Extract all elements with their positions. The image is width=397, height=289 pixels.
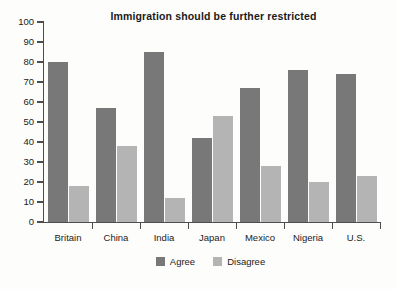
x-axis-tick bbox=[140, 222, 141, 229]
bar-japan-disagree bbox=[213, 116, 233, 222]
x-axis-tick bbox=[236, 222, 237, 229]
y-axis-tick bbox=[37, 221, 44, 222]
legend-swatch-icon bbox=[156, 257, 165, 266]
legend-swatch-icon bbox=[213, 257, 222, 266]
x-axis-label-britain: Britain bbox=[44, 232, 92, 243]
x-axis-tick bbox=[332, 222, 333, 229]
y-axis-tick bbox=[37, 101, 44, 102]
bar-britain-agree bbox=[48, 62, 68, 222]
x-axis-label-mexico: Mexico bbox=[236, 232, 284, 243]
y-axis-tick bbox=[37, 61, 44, 62]
x-axis-line bbox=[43, 222, 380, 223]
bar-japan-agree bbox=[192, 138, 212, 222]
bar-china-disagree bbox=[117, 146, 137, 222]
chart-title: Immigration should be further restricted bbox=[0, 10, 397, 22]
y-axis-tick bbox=[37, 81, 44, 82]
legend-label: Disagree bbox=[227, 256, 265, 267]
chart-legend: AgreeDisagree bbox=[0, 256, 397, 267]
y-axis-tick bbox=[37, 201, 44, 202]
legend-label: Agree bbox=[170, 256, 195, 267]
x-axis-tick bbox=[284, 222, 285, 229]
bar-mexico-agree bbox=[240, 88, 260, 222]
x-axis-label-nigeria: Nigeria bbox=[284, 232, 332, 243]
bar-chart: Immigration should be further restricted… bbox=[0, 0, 397, 289]
y-axis-tick-label: 50 bbox=[0, 116, 34, 127]
x-axis-tick bbox=[380, 222, 381, 229]
bar-india-disagree bbox=[165, 198, 185, 222]
bar-mexico-disagree bbox=[261, 166, 281, 222]
y-axis-tick-label: 20 bbox=[0, 176, 34, 187]
y-axis-tick-label: 40 bbox=[0, 136, 34, 147]
x-axis-tick bbox=[188, 222, 189, 229]
x-axis-label-china: China bbox=[92, 232, 140, 243]
bar-china-agree bbox=[96, 108, 116, 222]
y-axis-tick bbox=[37, 121, 44, 122]
y-axis-tick-label: 10 bbox=[0, 196, 34, 207]
x-axis-label-us: U.S. bbox=[332, 232, 380, 243]
y-axis-tick-label: 80 bbox=[0, 56, 34, 67]
y-axis-tick bbox=[37, 141, 44, 142]
y-axis-tick-label: 70 bbox=[0, 76, 34, 87]
y-axis-tick-label: 60 bbox=[0, 96, 34, 107]
bar-nigeria-agree bbox=[288, 70, 308, 222]
y-axis-tick-label: 30 bbox=[0, 156, 34, 167]
y-axis-tick-label: 90 bbox=[0, 36, 34, 47]
x-axis-label-india: India bbox=[140, 232, 188, 243]
y-axis-tick bbox=[37, 21, 44, 22]
legend-item-disagree[interactable]: Disagree bbox=[213, 256, 265, 267]
bar-britain-disagree bbox=[69, 186, 89, 222]
y-axis-tick-label: 100 bbox=[0, 16, 34, 27]
y-axis-tick bbox=[37, 161, 44, 162]
bar-nigeria-disagree bbox=[309, 182, 329, 222]
y-axis-tick-label: 0 bbox=[0, 216, 34, 227]
bar-us-disagree bbox=[357, 176, 377, 222]
y-axis-tick bbox=[37, 41, 44, 42]
legend-item-agree[interactable]: Agree bbox=[156, 256, 195, 267]
bar-india-agree bbox=[144, 52, 164, 222]
x-axis-label-japan: Japan bbox=[188, 232, 236, 243]
bar-us-agree bbox=[336, 74, 356, 222]
x-axis-tick bbox=[92, 222, 93, 229]
plot-area bbox=[44, 22, 380, 222]
y-axis-tick bbox=[37, 181, 44, 182]
